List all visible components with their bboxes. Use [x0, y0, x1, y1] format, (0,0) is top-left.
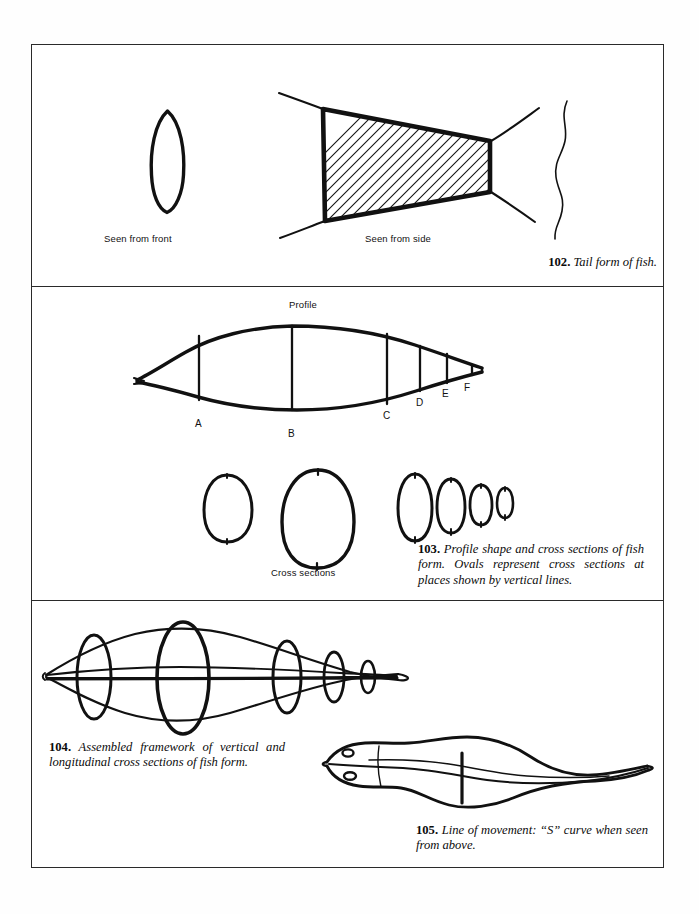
- caption-number-104: 104.: [49, 740, 71, 754]
- station-label-E: E: [442, 388, 449, 399]
- label-cross-sections: Cross sections: [271, 567, 335, 578]
- station-label-F: F: [464, 382, 470, 393]
- caption-number-102: 102.: [548, 255, 570, 269]
- page-canvas: Seen from front: [0, 0, 699, 914]
- caption-figure-103: 103. Profile shape and cross sections of…: [418, 542, 644, 588]
- panel-figures-104-105: 104. Assembled framework of vertical and…: [32, 601, 663, 869]
- label-seen-from-front: Seen from front: [104, 233, 172, 244]
- figure-plate: Seen from front: [31, 44, 664, 868]
- tail-side-view-wedge: [277, 91, 567, 241]
- station-label-A: A: [195, 418, 202, 429]
- station-label-D: D: [416, 397, 423, 408]
- caption-text-103: Profile shape and cross sections of fish…: [418, 542, 644, 587]
- caption-number-103: 103.: [418, 542, 440, 556]
- caption-text-102: Tail form of fish.: [573, 255, 657, 269]
- fish-from-above-s-curve: [317, 726, 657, 821]
- station-label-B: B: [288, 428, 295, 439]
- station-label-C: C: [383, 410, 390, 421]
- caption-text-104: Assembled framework of vertical and long…: [49, 740, 285, 769]
- label-seen-from-side: Seen from side: [365, 233, 431, 244]
- assembled-framework-drawing: [40, 615, 420, 730]
- tail-front-view-oval: [127, 107, 207, 217]
- caption-text-105: Line of movement: “S” curve when seen fr…: [416, 823, 648, 852]
- panel-figure-103: Profile A B C D: [32, 287, 663, 601]
- caption-number-105: 105.: [416, 823, 438, 837]
- caption-figure-104: 104. Assembled framework of vertical and…: [49, 740, 285, 771]
- caption-figure-102: 102. Tail form of fish.: [417, 255, 657, 270]
- label-profile: Profile: [289, 299, 317, 310]
- caption-figure-105: 105. Line of movement: “S” curve when se…: [416, 823, 648, 854]
- fish-profile-outline: [132, 312, 512, 422]
- panel-figure-102: Seen from front: [32, 45, 663, 287]
